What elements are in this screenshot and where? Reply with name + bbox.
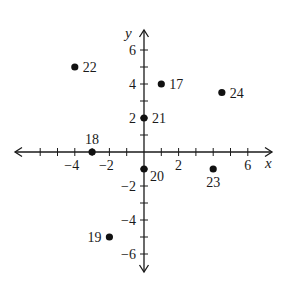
point-label: 21 (152, 111, 166, 126)
y-tick-label: −6 (121, 247, 136, 262)
point-label: 24 (230, 86, 244, 101)
point-19: 19 (87, 230, 113, 245)
point-marker (140, 114, 147, 121)
point-marker (210, 165, 217, 172)
point-marker (89, 148, 96, 155)
point-label: 17 (169, 77, 183, 92)
y-tick-label: 2 (129, 111, 136, 126)
y-axis (140, 30, 149, 272)
point-label: 22 (83, 60, 97, 75)
y-tick-label: −4 (121, 213, 136, 228)
point-label: 18 (85, 132, 99, 147)
x-tick-label: 2 (175, 158, 182, 173)
point-marker (106, 233, 113, 240)
y-axis-label: y (123, 25, 132, 41)
point-marker (71, 63, 78, 70)
x-axis-label: x (264, 155, 272, 171)
point-24: 24 (218, 86, 244, 101)
x-tick-label: 6 (244, 158, 251, 173)
y-tick-label: 4 (129, 77, 136, 92)
point-label: 19 (87, 230, 101, 245)
coordinate-plane: −4−226642−2−4−6 1718192021222324 x y (0, 0, 292, 286)
point-label: 23 (206, 175, 220, 190)
point-marker (158, 80, 165, 87)
x-tick-label: −2 (99, 158, 114, 173)
point-22: 22 (71, 60, 97, 75)
axes (15, 30, 272, 272)
point-marker (140, 165, 147, 172)
point-label: 20 (150, 169, 164, 184)
point-23: 23 (206, 165, 220, 190)
point-marker (218, 89, 225, 96)
x-tick-label: −4 (64, 158, 79, 173)
y-tick-label: −2 (121, 179, 136, 194)
point-17: 17 (158, 77, 184, 92)
y-tick-label: 6 (129, 43, 136, 58)
